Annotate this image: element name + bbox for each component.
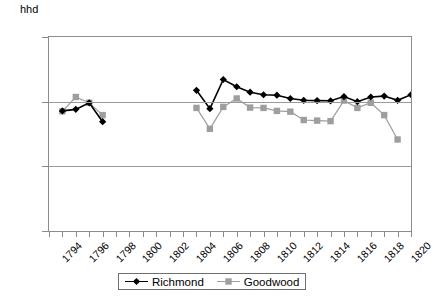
data-point-marker [220, 76, 227, 83]
x-axis-tick-label: 1798 [113, 240, 137, 264]
x-axis-tick-mark [76, 232, 77, 237]
x-axis-tick-mark [264, 232, 265, 237]
x-axis-tick-mark [290, 232, 291, 237]
x-axis-tick-label: 1816 [355, 240, 379, 264]
x-axis-tick-mark [196, 232, 197, 237]
x-axis-tick-mark [398, 232, 399, 237]
x-axis-tick-label: 1806 [221, 240, 245, 264]
data-point-marker [367, 93, 374, 100]
y-axis-unit-label: hhd [20, 3, 38, 15]
data-point-marker [314, 97, 321, 104]
x-axis-tick-mark [277, 232, 278, 237]
legend-item-goodwood[interactable]: Goodwood [217, 276, 300, 288]
data-point-marker [193, 105, 199, 111]
data-point-marker [247, 89, 254, 96]
x-axis-tick-mark [210, 232, 211, 237]
x-axis-tick-label: 1818 [382, 240, 406, 264]
x-axis-tick-mark [357, 232, 358, 237]
gridline [49, 102, 411, 103]
x-axis-tick-mark [62, 232, 63, 237]
data-series-layer [49, 37, 411, 231]
data-point-marker [73, 94, 79, 100]
legend-label: Richmond [152, 276, 204, 288]
x-axis-tick-mark [331, 232, 332, 237]
x-axis-tick-label: 1804 [194, 240, 218, 264]
x-axis-tick-mark [371, 232, 372, 237]
data-point-marker [260, 91, 267, 98]
x-axis-tick-mark [143, 232, 144, 237]
x-axis-tick-mark [223, 232, 224, 237]
x-axis-tick-mark [344, 232, 345, 237]
x-axis-tick-label: 1812 [301, 240, 325, 264]
data-point-marker [207, 126, 213, 132]
x-axis-tick-label: 1802 [167, 240, 191, 264]
data-point-marker [394, 97, 401, 104]
data-point-marker [314, 117, 320, 123]
data-point-marker [287, 108, 293, 114]
x-axis-tick-mark [317, 232, 318, 237]
gridline [49, 166, 411, 167]
data-point-marker [233, 83, 240, 90]
x-axis-tick-mark [156, 232, 157, 237]
data-point-marker [381, 92, 388, 99]
series-line [197, 99, 398, 140]
plot-area [48, 36, 412, 232]
data-point-marker [247, 104, 253, 110]
x-axis-tick-mark [237, 232, 238, 237]
legend-item-richmond[interactable]: Richmond [125, 276, 204, 288]
data-point-marker [300, 97, 307, 104]
data-point-marker [354, 105, 360, 111]
x-axis-tick-mark [411, 232, 412, 237]
x-axis-tick-mark [170, 232, 171, 237]
x-axis-tick-mark [384, 232, 385, 237]
data-point-marker [273, 92, 280, 99]
data-point-marker [407, 91, 411, 98]
x-axis-tick-label: 1796 [87, 240, 111, 264]
data-point-marker [394, 136, 400, 142]
data-point-marker [301, 117, 307, 123]
data-point-marker [381, 112, 387, 118]
x-axis-tick-mark [116, 232, 117, 237]
x-axis-tick-mark [103, 232, 104, 237]
data-point-marker [274, 108, 280, 114]
x-axis-tick-mark [250, 232, 251, 237]
x-axis-tick-label: 1794 [60, 240, 84, 264]
x-axis-tick-label: 1808 [248, 240, 272, 264]
x-axis-tick-mark [49, 232, 50, 237]
data-point-marker [72, 106, 79, 113]
x-axis-tick-label: 1814 [328, 240, 352, 264]
x-axis-tick-label: 1810 [274, 240, 298, 264]
x-axis-tick-mark [129, 232, 130, 237]
x-axis-tick-mark [89, 232, 90, 237]
legend-label: Goodwood [244, 276, 300, 288]
chart-legend: RichmondGoodwood [118, 273, 306, 290]
data-point-marker [327, 118, 333, 124]
data-point-marker [220, 104, 226, 110]
legend-swatch-diamond-icon [125, 277, 148, 286]
x-axis-tick-label: 1820 [408, 240, 432, 264]
x-axis-tick-mark [304, 232, 305, 237]
legend-swatch-square-icon [217, 277, 240, 286]
x-axis-tick-label: 1800 [140, 240, 164, 264]
data-point-marker [260, 105, 266, 111]
x-axis-tick-mark [183, 232, 184, 237]
